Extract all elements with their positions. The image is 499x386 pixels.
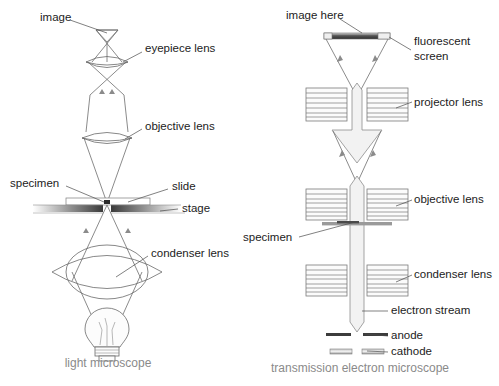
mid-ray-bundle: [86, 62, 128, 132]
microscope-comparison-figure: image eyepiece lens objective lens speci…: [0, 0, 499, 386]
label-fluorescent-screen-line2: screen: [414, 50, 449, 62]
specimen-marker: [104, 200, 110, 204]
label-fluorescent-screen-line1: fluorescent: [414, 35, 471, 47]
label-cathode: cathode: [391, 345, 432, 357]
objective-to-specimen-rays: [84, 138, 130, 203]
label-objective-lens-tem: objective lens: [414, 193, 484, 205]
leader-image: [70, 20, 107, 33]
label-condenser-lens: condenser lens: [151, 247, 229, 259]
caption-transmission-electron-microscope: transmission electron microscope: [271, 361, 449, 375]
leader-eyepiece: [123, 52, 142, 62]
label-electron-stream: electron stream: [391, 304, 470, 316]
label-image-here: image here: [286, 9, 344, 21]
light-microscope-diagram: image eyepiece lens objective lens speci…: [10, 11, 229, 370]
light-bulb-icon: [85, 308, 129, 361]
label-projector-lens: projector lens: [414, 96, 483, 108]
leader-fluorescent-screen: [389, 37, 411, 50]
eyepiece-ray-bundle: [92, 30, 122, 62]
label-eyepiece-lens: eyepiece lens: [145, 42, 216, 54]
specimen-plate-tem: [322, 221, 392, 225]
label-slide: slide: [172, 180, 196, 192]
label-stage: stage: [182, 202, 210, 214]
objective-lens-shape: [82, 133, 132, 144]
leader-image-here: [340, 19, 362, 33]
condenser-lens-shape: [52, 245, 162, 299]
label-specimen-tem: specimen: [243, 231, 292, 243]
diagram-canvas: image eyepiece lens objective lens speci…: [0, 0, 499, 386]
label-anode: anode: [391, 329, 423, 341]
label-objective-lens: objective lens: [145, 120, 215, 132]
label-image: image: [40, 11, 71, 23]
tem-diagram: image here fluorescent screen projector …: [243, 9, 492, 375]
label-specimen: specimen: [10, 177, 59, 189]
anode-bars: [326, 333, 388, 336]
caption-light-microscope: light microscope: [65, 356, 152, 370]
electron-column-lower: [350, 176, 364, 332]
label-condenser-lens-tem: condenser lens: [414, 268, 492, 280]
image-arrow-icon: [96, 30, 118, 42]
condenser-ray-bundle: [72, 205, 142, 281]
fluorescent-screen-shape: [324, 33, 390, 39]
